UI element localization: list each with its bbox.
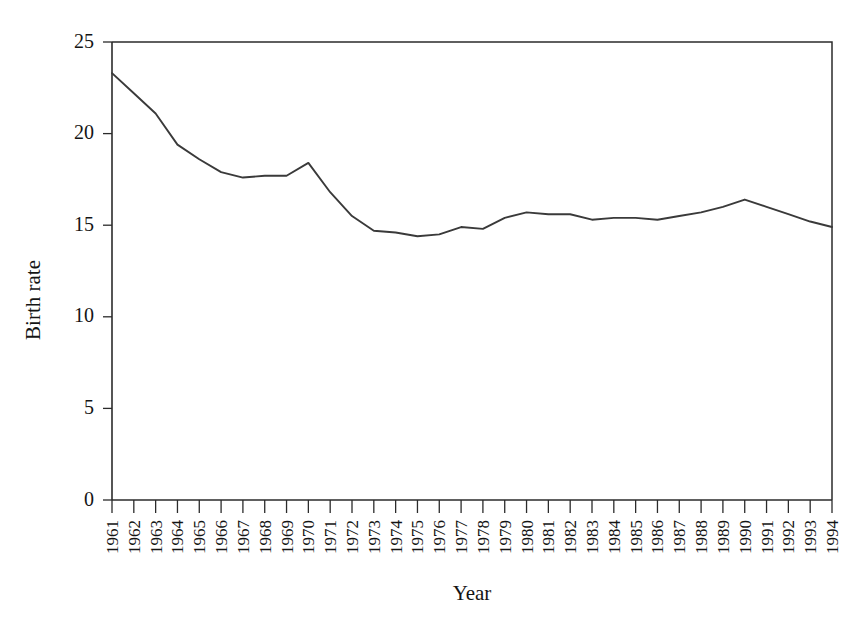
x-tick-label: 1972 bbox=[343, 520, 362, 554]
x-tick-label: 1976 bbox=[430, 520, 449, 554]
x-tick-label: 1963 bbox=[147, 520, 166, 554]
x-tick-label: 1980 bbox=[518, 520, 537, 554]
y-axis-ticks bbox=[103, 42, 112, 500]
y-tick-label: 20 bbox=[74, 121, 94, 143]
x-tick-label: 1981 bbox=[539, 520, 558, 554]
chart-canvas: 0510152025 19611962196319641965196619671… bbox=[0, 0, 868, 635]
x-tick-label: 1985 bbox=[627, 520, 646, 554]
x-tick-label: 1983 bbox=[583, 520, 602, 554]
x-tick-label: 1970 bbox=[299, 520, 318, 554]
birth-rate-data-line bbox=[112, 73, 832, 236]
x-axis-ticks bbox=[112, 500, 832, 513]
x-tick-label: 1974 bbox=[387, 520, 406, 555]
y-tick-label: 25 bbox=[74, 30, 94, 52]
y-axis-title: Birth rate bbox=[21, 260, 45, 340]
x-tick-label: 1987 bbox=[670, 520, 689, 555]
x-tick-label: 1961 bbox=[103, 520, 122, 554]
x-tick-label: 1975 bbox=[408, 520, 427, 554]
plot-frame bbox=[112, 42, 832, 500]
y-tick-label: 15 bbox=[74, 213, 94, 235]
x-tick-label: 1982 bbox=[561, 520, 580, 554]
birth-rate-line-chart-figure: 0510152025 19611962196319641965196619671… bbox=[0, 0, 868, 635]
x-tick-label: 1986 bbox=[648, 520, 667, 554]
x-tick-label: 1990 bbox=[736, 520, 755, 554]
x-tick-label: 1973 bbox=[365, 520, 384, 554]
x-tick-label: 1978 bbox=[474, 520, 493, 554]
x-tick-label: 1965 bbox=[190, 520, 209, 554]
x-tick-label: 1993 bbox=[801, 520, 820, 554]
x-tick-label: 1968 bbox=[256, 520, 275, 554]
x-tick-label: 1992 bbox=[779, 520, 798, 554]
x-tick-label: 1994 bbox=[823, 520, 842, 555]
y-tick-label: 10 bbox=[74, 304, 94, 326]
x-tick-label: 1969 bbox=[278, 520, 297, 554]
x-tick-label: 1991 bbox=[758, 520, 777, 554]
x-tick-label: 1962 bbox=[125, 520, 144, 554]
y-tick-label: 0 bbox=[84, 488, 94, 510]
x-tick-label: 1971 bbox=[321, 520, 340, 554]
x-tick-label: 1967 bbox=[234, 520, 253, 555]
x-tick-label: 1979 bbox=[496, 520, 515, 554]
x-tick-label: 1989 bbox=[714, 520, 733, 554]
x-tick-label: 1988 bbox=[692, 520, 711, 554]
x-tick-label: 1966 bbox=[212, 520, 231, 554]
x-tick-label: 1964 bbox=[168, 520, 187, 555]
y-tick-label: 5 bbox=[84, 396, 94, 418]
x-axis-tick-labels: 1961196219631964196519661967196819691970… bbox=[103, 520, 842, 555]
x-tick-label: 1977 bbox=[452, 520, 471, 555]
y-axis-tick-labels: 0510152025 bbox=[74, 30, 94, 510]
x-axis-title: Year bbox=[453, 581, 492, 605]
x-tick-label: 1984 bbox=[605, 520, 624, 555]
